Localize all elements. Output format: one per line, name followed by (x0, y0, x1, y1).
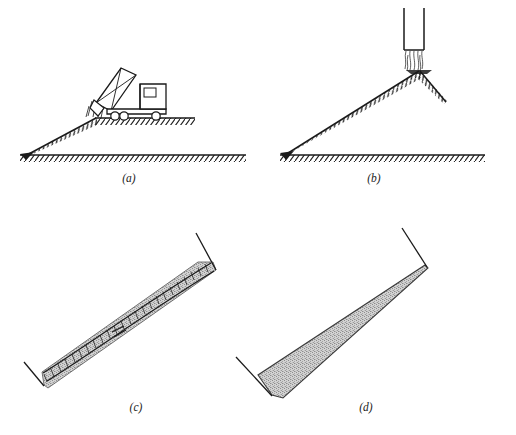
figure-canvas: (a) (0, 0, 516, 435)
panel-c-label: (c) (130, 401, 143, 414)
upper-ground-line (95, 118, 195, 125)
truck-cab (140, 84, 166, 109)
panel-b-label: (b) (367, 172, 381, 185)
figure-root: (a) (0, 0, 516, 435)
ground-line (280, 155, 485, 162)
figure-background (0, 0, 516, 435)
panel-d-label: (d) (359, 401, 373, 414)
lower-ground-line (20, 155, 246, 162)
panel-a-label: (a) (122, 172, 136, 185)
